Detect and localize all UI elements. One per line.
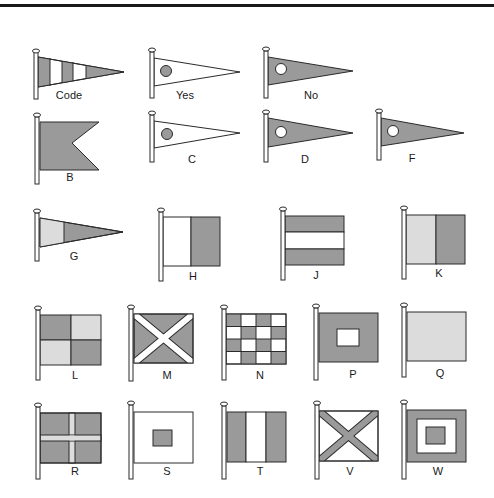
label-s: S [147,465,187,477]
label-no: No [291,89,331,101]
label-c: C [172,153,212,165]
label-n: N [240,369,280,381]
label-b: B [50,171,90,183]
label-q: Q [420,367,460,379]
label-d: D [285,153,325,165]
label-w: W [418,465,458,477]
label-code: Code [49,89,89,101]
label-p: P [333,368,373,380]
label-t: T [240,465,280,477]
label-f: F [392,152,432,164]
label-yes: Yes [165,89,205,101]
flag-q [401,303,467,377]
label-g: G [54,250,94,262]
label-l: L [55,369,95,381]
label-h: H [173,270,213,282]
label-m: M [147,369,187,381]
label-k: K [419,267,459,279]
label-v: V [330,465,370,477]
label-j: J [296,269,336,281]
flag-diagram [0,0,494,498]
label-r: R [55,465,95,477]
